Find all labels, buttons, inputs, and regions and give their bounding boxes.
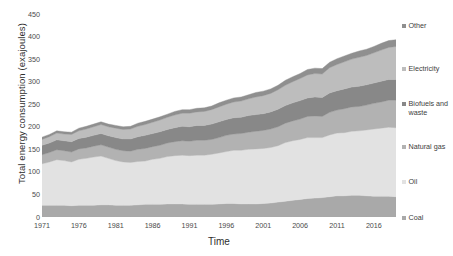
x-axis-tick-label: 1976 [71,221,87,230]
chart-legend: OtherElectricityBiofuels and wasteNatura… [402,0,453,256]
y-axis-tick-label: 450 [14,11,40,18]
legend-swatch-icon [402,67,406,71]
y-axis-tick-label: 300 [14,78,40,85]
legend-item-biofuels-and-waste[interactable]: Biofuels and waste [402,100,451,117]
legend-item-other[interactable]: Other [402,22,426,31]
legend-swatch-icon [402,216,406,220]
legend-swatch-icon [402,102,406,106]
legend-item-electricity[interactable]: Electricity [402,65,439,74]
legend-label: Natural gas [409,143,446,152]
y-axis-tick-label: 150 [14,146,40,153]
x-axis-tick-label: 2006 [292,221,308,230]
legend-swatch-icon [402,24,406,28]
x-axis-tick-label: 1981 [108,221,124,230]
plot-area [42,14,396,217]
area-series-group [42,14,396,217]
legend-label: Electricity [409,65,440,74]
x-axis-title: Time [42,236,396,247]
y-axis-tick-label: 400 [14,33,40,40]
x-axis-tick-label: 1986 [145,221,161,230]
x-axis-tick-label: 1991 [182,221,198,230]
legend-label: Other [409,22,427,31]
x-axis-tick-label: 2016 [366,221,382,230]
legend-item-coal[interactable]: Coal [402,214,423,223]
y-axis-tick-label: 0 [14,214,40,221]
x-axis-tick-label: 2011 [329,221,344,230]
x-axis-tick-label: 1971 [34,221,50,230]
x-axis-tick-label: 2001 [255,221,271,230]
x-axis-tick-labels: 1971197619811986199119962001200620112016 [0,221,453,233]
y-axis-tick-labels: 050100150200250300350400450 [10,0,40,256]
stacked-area-chart: Total energy consumption (exajoules) 050… [0,0,453,256]
legend-swatch-icon [402,145,406,149]
x-axis-tick-label: 1996 [218,221,234,230]
legend-swatch-icon [402,180,406,184]
legend-label: Oil [409,178,418,187]
legend-label: Coal [409,214,424,223]
y-axis-tick-label: 250 [14,101,40,108]
y-axis-tick-label: 50 [14,191,40,198]
y-axis-tick-label: 200 [14,123,40,130]
legend-item-oil[interactable]: Oil [402,178,417,187]
y-axis-tick-label: 100 [14,168,40,175]
legend-label: Biofuels and waste [409,100,451,117]
y-axis-tick-label: 350 [14,56,40,63]
legend-item-natural-gas[interactable]: Natural gas [402,143,445,152]
